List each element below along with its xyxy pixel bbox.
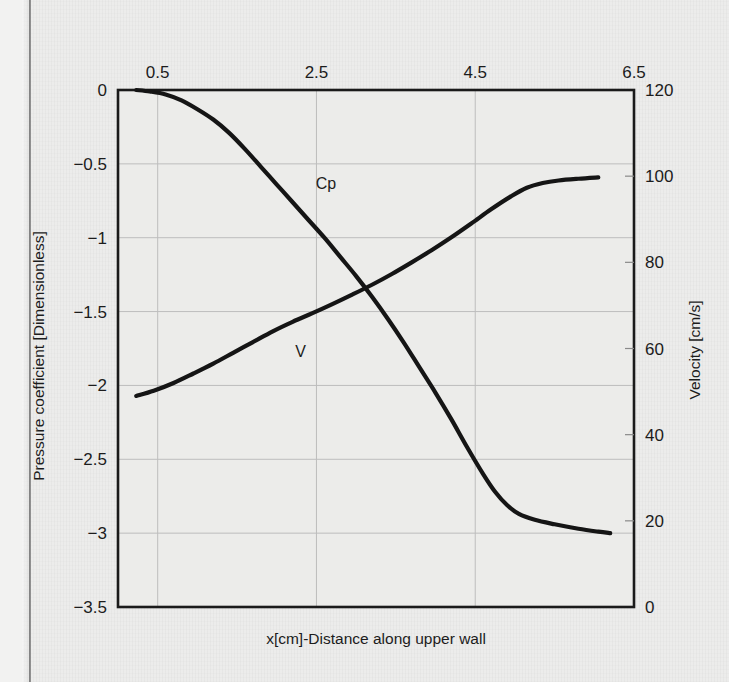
secondary-y-tick-label: 80 [645, 253, 664, 272]
secondary-y-tick-label: 100 [645, 167, 673, 186]
secondary-y-tick-label: 0 [645, 598, 654, 617]
x-tick-label: 4.5 [463, 63, 487, 82]
series-label-v: V [295, 343, 306, 360]
chart-canvas: 0.52.54.56.5 0−0.5−1−1.5−2−2.5−3−3.5 120… [0, 0, 729, 682]
secondary-y-axis-tick-labels: 120100806040200 [645, 81, 673, 617]
plot-area-background [118, 90, 634, 607]
y-tick-label: 0 [98, 81, 107, 100]
x-tick-label: 0.5 [146, 63, 170, 82]
secondary-y-axis-title: Velocity [cm/s] [686, 300, 703, 399]
y-tick-label: −3.5 [73, 598, 107, 617]
y-tick-label: −2 [88, 376, 107, 395]
series-label-cp: Cp [316, 175, 337, 192]
y-tick-label: −2.5 [73, 450, 107, 469]
secondary-y-tick-label: 120 [645, 81, 673, 100]
secondary-y-tick-label: 40 [645, 426, 664, 445]
y-tick-label: −3 [88, 524, 107, 543]
x-axis-tick-labels: 0.52.54.56.5 [146, 63, 646, 82]
secondary-y-tick-label: 60 [645, 340, 664, 359]
y-tick-label: −1.5 [73, 303, 107, 322]
y-tick-label: −0.5 [73, 155, 107, 174]
chart-figure: 0.52.54.56.5 0−0.5−1−1.5−2−2.5−3−3.5 120… [0, 0, 729, 682]
y-axis-title: Pressure coefficient [Dimensionless] [30, 231, 47, 481]
x-tick-label: 2.5 [305, 63, 329, 82]
x-tick-label: 6.5 [622, 63, 646, 82]
y-tick-label: −1 [88, 229, 107, 248]
y-axis-tick-labels: 0−0.5−1−1.5−2−2.5−3−3.5 [73, 81, 107, 617]
secondary-y-tick-label: 20 [645, 512, 664, 531]
x-axis-title: x[cm]-Distance along upper wall [266, 630, 486, 647]
